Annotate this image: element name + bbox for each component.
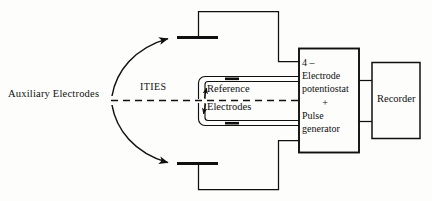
potentiostat-line-4: + (302, 96, 348, 109)
potentiostat-line-2: Electrode (302, 69, 348, 82)
potentiostat-line-1: 4 – (302, 56, 348, 69)
auxiliary-electrodes-label: Auxiliary Electrodes (8, 88, 99, 99)
electrodes-label: Electrodes (207, 101, 251, 112)
reference-label: Reference (207, 83, 250, 94)
ities-label: ITIES (140, 82, 166, 93)
auxiliary-electrode-top (177, 12, 299, 62)
auxiliary-electrode-bottom (177, 141, 299, 190)
potentiostat-recorder-leads (359, 81, 372, 122)
ities-four-electrode-diagram: Auxiliary Electrodes ITIES Reference Ele… (0, 0, 432, 201)
potentiostat-line-6: generator (302, 122, 348, 135)
recorder-label: Recorder (377, 93, 415, 104)
potentiostat-label-block: 4 – Electrode potentiostat + Pulse gener… (302, 56, 348, 135)
potentiostat-line-3: potentiostat (302, 82, 348, 95)
potentiostat-line-5: Pulse (302, 109, 348, 122)
